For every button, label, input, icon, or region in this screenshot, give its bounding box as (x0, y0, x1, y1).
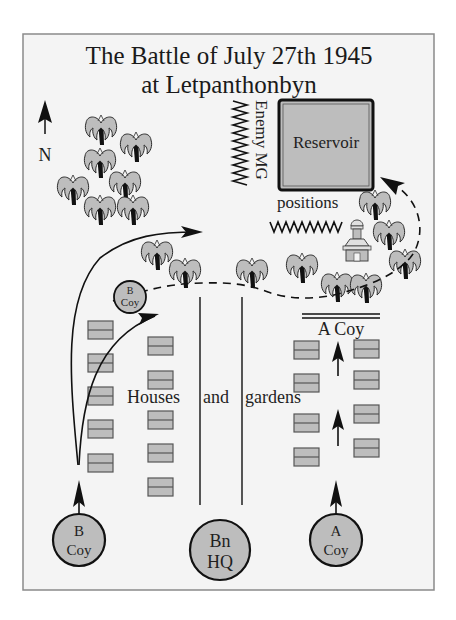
svg-text:Bn: Bn (209, 531, 230, 551)
houses-label: Houses (127, 387, 180, 407)
unit-b-coy-start: B Coy (53, 514, 105, 566)
reservoir-label: Reservoir (293, 133, 359, 152)
svg-text:HQ: HQ (207, 552, 233, 572)
reservoir: Reservoir (279, 100, 373, 190)
unit-b-coy-forward: B Coy (114, 281, 146, 313)
positions-label: positions (277, 193, 338, 212)
svg-text:A: A (331, 523, 342, 539)
gardens-label: gardens (245, 387, 301, 407)
unit-bn-hq: Bn HQ (190, 520, 250, 580)
map-title-line2: at Letpanthonbyn (141, 71, 317, 98)
svg-text:Coy: Coy (66, 542, 92, 558)
svg-text:B: B (127, 285, 134, 296)
unit-a-coy-start: A Coy (310, 514, 362, 566)
battle-map: The Battle of July 27th 1945 at Letpanth… (0, 0, 456, 620)
a-coy-line-label: A Coy (318, 319, 365, 339)
and-label: and (203, 387, 229, 407)
enemy-mg-label: Enemy MG (252, 100, 271, 180)
map-title-line1: The Battle of July 27th 1945 (86, 42, 373, 69)
svg-text:Coy: Coy (323, 542, 349, 558)
svg-text:Coy: Coy (121, 296, 140, 308)
svg-text:B: B (74, 523, 84, 539)
north-label: N (39, 145, 52, 165)
